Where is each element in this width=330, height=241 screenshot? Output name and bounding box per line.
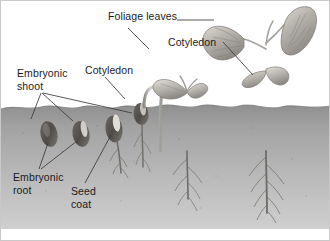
label-cotyledon-middle: Cotyledon [85, 64, 133, 77]
label-seed-coat: Seed coat [71, 185, 96, 210]
label-foliage-leaves: Foliage leaves [108, 10, 177, 23]
diagram-canvas [1, 1, 330, 241]
plant-taproot [266, 151, 267, 213]
label-embryonic-shoot: Embryonic shoot [17, 67, 68, 92]
label-embryonic-root: Embryonic root [13, 171, 64, 196]
label-cotyledon-top: Cotyledon [168, 36, 216, 49]
germination-diagram: Foliage leaves Cotyledon Cotyledon Embry… [0, 0, 330, 241]
